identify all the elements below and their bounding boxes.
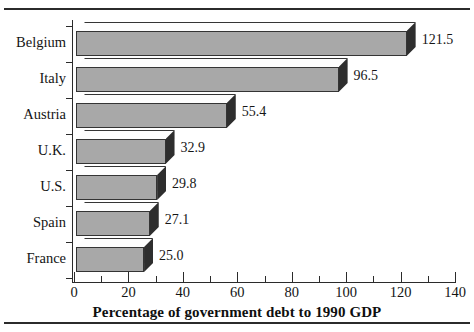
bar-front-face (76, 247, 144, 272)
bar-value-label: 29.8 (172, 177, 197, 191)
category-tick (66, 98, 73, 99)
x-major-tick (74, 272, 75, 282)
bar-top-face (76, 130, 175, 139)
bar-france (76, 238, 153, 274)
category-label: Austria (2, 107, 66, 122)
category-label: Italy (2, 71, 66, 86)
category-label: France (2, 251, 66, 266)
category-tick (66, 26, 73, 27)
bar-front-face (76, 211, 150, 236)
category-label-slot: Austria (0, 94, 66, 130)
x-tick-label: 80 (272, 285, 312, 300)
bar-top-face (76, 238, 153, 247)
category-tick (66, 170, 73, 171)
category-label: Spain (2, 215, 66, 230)
x-tick-label: 120 (381, 285, 421, 300)
bar-u-k (76, 130, 175, 166)
category-label-slot: Belgium (0, 22, 66, 58)
bar-value-label: 55.4 (242, 105, 267, 119)
bar-value-label: 121.5 (422, 33, 454, 47)
x-major-tick (183, 272, 184, 282)
bar-value-label: 32.9 (181, 141, 206, 155)
x-major-tick (292, 272, 293, 282)
category-tick (66, 242, 73, 243)
x-minor-tick (319, 276, 320, 282)
category-label-slot: Italy (0, 58, 66, 94)
value-axis-line (72, 282, 456, 283)
bar-top-face (76, 22, 416, 31)
x-tick-label: 40 (163, 285, 203, 300)
bar-value-label: 27.1 (165, 213, 190, 227)
x-major-tick (128, 272, 129, 282)
plot-area: BelgiumItalyAustriaU.K.U.S.SpainFrance 0… (0, 0, 474, 332)
x-major-tick (346, 272, 347, 282)
x-minor-tick (373, 276, 374, 282)
category-label: U.S. (2, 179, 66, 194)
x-major-tick (455, 272, 456, 282)
x-minor-tick (210, 276, 211, 282)
bar-chart-figure: BelgiumItalyAustriaU.K.U.S.SpainFrance 0… (0, 0, 474, 332)
x-major-tick (237, 272, 238, 282)
x-tick-label: 140 (435, 285, 474, 300)
x-tick-label: 60 (217, 285, 257, 300)
category-label: Belgium (2, 35, 66, 50)
x-minor-tick (265, 276, 266, 282)
category-tick (66, 206, 73, 207)
x-minor-tick (428, 276, 429, 282)
category-label-slot: France (0, 238, 66, 274)
x-tick-label: 100 (326, 285, 366, 300)
category-label: U.K. (2, 143, 66, 158)
bar-front-face (76, 175, 157, 200)
x-tick-label: 20 (108, 285, 148, 300)
category-tick (66, 278, 73, 279)
x-minor-tick (101, 276, 102, 282)
category-tick (66, 134, 73, 135)
bar-front-face (76, 103, 227, 128)
x-minor-tick (156, 276, 157, 282)
bar-value-label: 96.5 (354, 69, 379, 83)
bar-front-face (76, 139, 166, 164)
bar-front-face (76, 67, 339, 92)
bar-top-face (76, 166, 166, 175)
bar-front-face (76, 31, 407, 56)
bar-top-face (76, 94, 236, 103)
x-axis-title: Percentage of government debt to 1990 GD… (0, 304, 474, 321)
bar-austria (76, 94, 236, 130)
bar-u-s (76, 166, 166, 202)
category-label-slot: U.S. (0, 166, 66, 202)
bar-belgium (76, 22, 416, 58)
x-tick-label: 0 (54, 285, 94, 300)
bar-value-label: 25.0 (159, 249, 184, 263)
category-label-slot: Spain (0, 202, 66, 238)
category-label-slot: U.K. (0, 130, 66, 166)
category-tick (66, 62, 73, 63)
bar-top-face (76, 202, 159, 211)
bar-italy (76, 58, 348, 94)
bar-top-face (76, 58, 348, 67)
x-major-tick (401, 272, 402, 282)
bar-spain (76, 202, 159, 238)
